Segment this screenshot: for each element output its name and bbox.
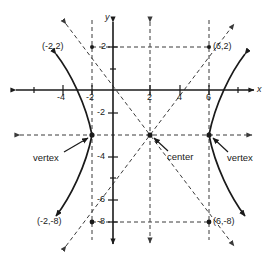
y-axis-label: y [105,13,110,22]
vertex-left-leader [64,138,88,152]
corner-top-right-point [207,45,211,49]
x-tick-label-6: 6 [206,93,211,102]
point-label-bottom-left: (-2,-8) [37,217,62,226]
x-tick-label-minus2: -2 [86,93,94,102]
x-axis-label: x [257,85,262,94]
vertex-left-label: vertex [33,153,59,163]
point-label-top-right: (6,2) [213,42,232,51]
vertex-right-label: vertex [227,153,253,163]
corner-top-left-point [90,45,94,49]
point-label-bottom-right: (6,-8) [213,217,235,226]
corner-bottom-right-point [207,220,212,225]
y-tick-label-2: 2 [101,42,106,51]
point-label-top-left: (-2,2) [42,42,64,51]
x-tick-label-4: 4 [177,93,182,102]
vertex-left-point [89,132,94,137]
center-label: center [167,152,193,162]
y-tick-label-minus6: -6 [97,195,105,204]
x-tick-label-minus4: -4 [57,93,65,102]
vertex-right-leader [213,138,228,152]
y-tick-label-minus4: -4 [97,152,105,161]
x-tick-label-2: 2 [147,93,152,102]
y-tick-label-minus8: -8 [97,217,105,226]
vertex-right-point [206,132,211,137]
y-tick-label-minus2: -2 [97,108,105,117]
corner-bottom-left-point [90,220,95,225]
hyperbola-figure: x y -4 -2 2 4 6 2 -2 -4 -6 -8 (-2,2) (6,… [0,0,272,256]
center-point [147,132,152,137]
